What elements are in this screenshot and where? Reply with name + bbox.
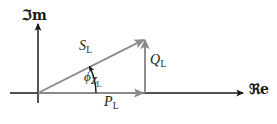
real-power-symbol: P <box>104 94 113 109</box>
real-power-label: PL <box>104 95 118 109</box>
impedance-angle-label: ϕZL <box>84 70 101 84</box>
apparent-power-subscript: L <box>86 45 92 55</box>
phasor-diagram-figure: ℑm ℜe SL QL PL ϕZL <box>0 0 277 124</box>
impedance-angle-symbol: ϕ <box>84 69 91 84</box>
reactive-power-subscript: L <box>160 59 166 69</box>
reactive-power-label: QL <box>150 53 166 67</box>
apparent-power-symbol: S <box>79 38 86 53</box>
reactive-power-symbol: Q <box>150 52 160 67</box>
real-power-subscript: L <box>113 101 119 111</box>
apparent-power-label: SL <box>79 39 92 53</box>
real-axis-label: ℜe <box>249 82 269 96</box>
imaginary-axis-label: ℑm <box>22 8 47 22</box>
impedance-angle-sub-subscript: L <box>97 80 102 89</box>
impedance-angle-subscript: Z <box>91 75 97 86</box>
